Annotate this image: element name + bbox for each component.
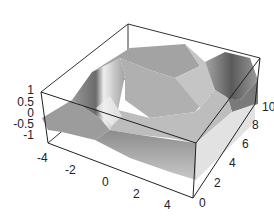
y-tick: 4 bbox=[229, 157, 236, 169]
y-tick: 0 bbox=[199, 197, 206, 209]
x-tick: 2 bbox=[133, 188, 140, 200]
x-tick: -4 bbox=[37, 152, 48, 164]
y-tick: 10 bbox=[262, 101, 274, 113]
y-tick: 8 bbox=[252, 119, 259, 131]
x-tick: -2 bbox=[65, 164, 76, 176]
surface-plot bbox=[0, 0, 274, 218]
x-tick: 4 bbox=[164, 199, 171, 211]
surface bbox=[42, 44, 258, 180]
y-tick: 2 bbox=[214, 177, 221, 189]
x-tick: 0 bbox=[102, 176, 109, 188]
y-tick: 6 bbox=[242, 138, 249, 150]
z-tick: -1 bbox=[0, 129, 34, 141]
